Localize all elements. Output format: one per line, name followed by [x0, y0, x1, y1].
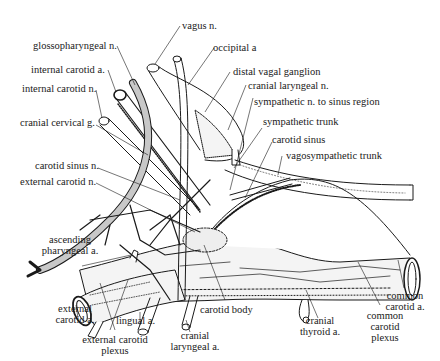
carotid-sinus-bulb [200, 179, 410, 255]
label-common-carotid-plexus-line3: plexus [355, 332, 415, 343]
label-internal-carotid-n: internal carotid n. [22, 83, 96, 94]
label-vagus-n: vagus n. [182, 20, 217, 31]
label-ascending-pharyngeal-a-line2: pharyngeal a. [35, 245, 105, 256]
label-common-carotid-a-line2: carotid a. [375, 301, 435, 312]
label-sympathetic-n-to-sinus-region: sympathetic n. to sinus region [254, 96, 380, 107]
label-external-carotid-plexus-line1: external carotid [60, 334, 170, 345]
label-ascending-pharyngeal-a-line1: ascending [40, 234, 100, 245]
label-distal-vagal-ganglion: distal vagal ganglion [233, 66, 320, 77]
label-external-carotid-n: external carotid n. [20, 176, 96, 187]
label-carotid-body: carotid body [200, 304, 253, 315]
label-vagosympathetic-trunk: vagosympathetic trunk [286, 150, 382, 161]
label-glossopharyngeal-n: glossopharyngeal n. [33, 40, 117, 51]
label-carotid-sinus-n: carotid sinus n. [35, 160, 99, 171]
label-common-carotid-plexus-line2: carotid [355, 321, 415, 332]
label-cranial-thyroid-a-line2: thyroid a. [285, 326, 355, 337]
label-sympathetic-trunk: sympathetic trunk [263, 116, 339, 127]
label-cranial-thyroid-a-line1: cranial [290, 315, 350, 326]
label-external-carotid-plexus-line2: plexus [60, 345, 170, 356]
label-cranial-laryngeal-a-line2: laryngeal a. [160, 341, 230, 352]
vagus-nerve [147, 64, 244, 165]
diagram-canvas: vagus n. glossopharyngeal n. occipital a… [0, 0, 440, 361]
label-carotid-sinus: carotid sinus [272, 134, 325, 145]
label-lingual-a: lingual a. [116, 315, 155, 326]
label-common-carotid-a-line1: common [375, 290, 435, 301]
label-cranial-cervical-g: cranial cervical g. [20, 117, 95, 128]
label-internal-carotid-a: internal carotid a. [31, 64, 105, 75]
label-external-carotid-a-line2: carotid a. [45, 314, 105, 325]
label-cranial-laryngeal-n: cranial laryngeal n. [248, 80, 329, 91]
label-occipital-a: occipital a [213, 42, 256, 53]
label-external-carotid-a-line1: external [45, 303, 105, 314]
label-cranial-laryngeal-a-line1: cranial [165, 330, 225, 341]
